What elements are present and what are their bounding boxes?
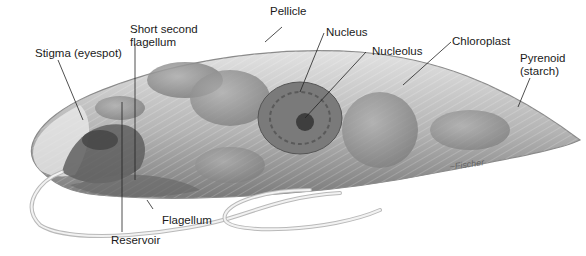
label-pellicle: Pellicle [270,5,306,18]
label-nucleolus: Nucleolus [372,45,423,58]
label-reservoir: Reservoir [111,234,160,247]
label-stigma: Stigma (eyespot) [35,47,122,60]
label-flagellum: Flagellum [162,214,212,227]
label-chloroplast: Chloroplast [452,35,510,48]
nucleolus [296,113,314,131]
label-pyrenoid: Pyrenoid (starch) [520,52,565,78]
label-nucleus: Nucleus [326,26,368,39]
nucleus [258,82,342,154]
euglena-diagram: ~Fischer Pellicle Sho [0,0,586,256]
label-short-second-flagellum: Short second flagellum [130,23,198,49]
